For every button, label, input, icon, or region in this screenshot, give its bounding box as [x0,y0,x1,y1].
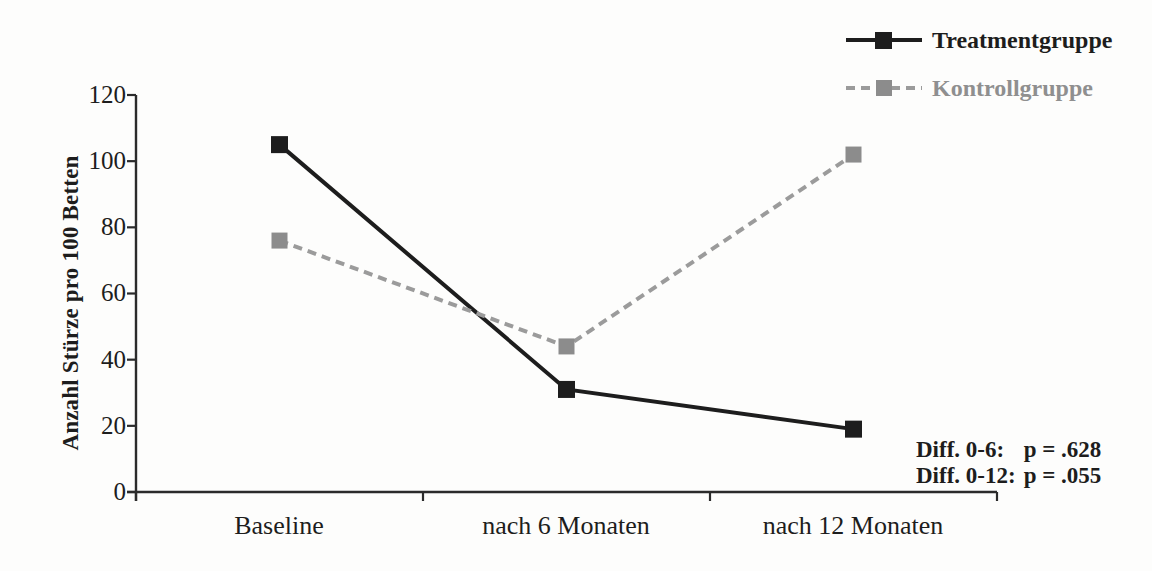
marker-kontrollgruppe-1 [559,338,575,354]
p-value-annotation: Diff. 0-6: p = .628 Diff. 0-12: p = .055 [916,437,1101,489]
x-tick-label-baseline: Baseline [159,511,399,541]
annotation-diff-0-6-value: p = .628 [1024,437,1102,463]
y-tick-label: 40 [48,346,126,374]
x-tick-label-12-monate: nach 12 Monaten [733,511,973,541]
marker-kontrollgruppe-2 [846,147,862,163]
annotation-diff-0-6-label: Diff. 0-6: [916,437,1016,463]
marker-kontrollgruppe-0 [272,233,288,249]
marker-treatmentgruppe-2 [845,421,862,438]
y-tick-label: 20 [48,412,126,440]
legend-label-kontrollgruppe: Kontrollgruppe [932,76,1093,100]
legend-entry-treatmentgruppe: Treatmentgruppe [846,28,1112,52]
y-tick-label: 100 [48,147,126,175]
legend-square-marker-gray [876,80,892,96]
legend-line-sample-solid [846,30,922,50]
annotation-diff-0-12-label: Diff. 0-12: [916,463,1016,489]
legend-line-sample-dashed [846,78,922,98]
y-tick-label: 120 [48,81,126,109]
legend-label-treatmentgruppe: Treatmentgruppe [932,28,1112,52]
marker-treatmentgruppe-1 [558,381,575,398]
legend-entry-kontrollgruppe: Kontrollgruppe [846,76,1093,100]
y-tick-label: 80 [48,213,126,241]
legend-square-marker-black [875,32,892,49]
chart-figure: Anzahl Stürze pro 100 Betten 120 100 80 … [0,0,1152,571]
x-tick-label-6-monate: nach 6 Monaten [446,511,686,541]
y-tick-label: 60 [48,279,126,307]
annotation-diff-0-12-value: p = .055 [1024,463,1102,489]
y-tick-label: 0 [48,478,126,506]
series-line-kontrollgruppe [280,155,854,347]
marker-treatmentgruppe-0 [271,136,288,153]
